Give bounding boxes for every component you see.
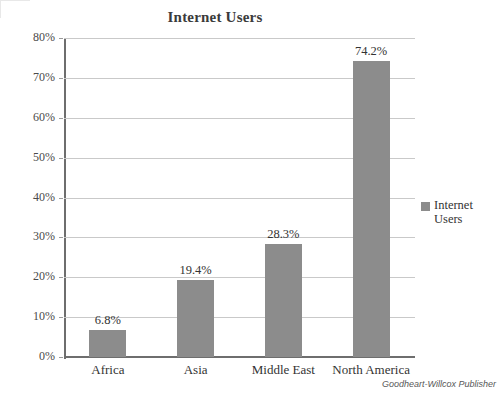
- y-tick-mark-70: [59, 78, 63, 79]
- y-tick-label: 10%: [7, 309, 55, 324]
- bar-africa[interactable]: [89, 330, 126, 357]
- legend-label-internet-users: Internet Users: [434, 198, 496, 226]
- scan-edge-top: [0, 0, 30, 1]
- publisher-credit: Goodheart-Willcox Publisher: [0, 379, 496, 389]
- y-tick-label: 60%: [7, 110, 55, 125]
- plot-area: [64, 38, 415, 357]
- y-tick-mark-20: [59, 277, 63, 278]
- y-tick-mark-80: [59, 38, 63, 39]
- y-tick-mark-50: [59, 158, 63, 159]
- bar-north-america[interactable]: [353, 61, 390, 357]
- y-tick-mark-60: [59, 118, 63, 119]
- legend-swatch-internet-users: [421, 202, 430, 211]
- y-tick-mark-30: [59, 237, 63, 238]
- chart-legend: Internet Users: [421, 198, 496, 226]
- bar-value-label: 19.4%: [156, 263, 236, 278]
- bar-middle-east[interactable]: [265, 244, 302, 357]
- category-label: North America: [316, 362, 426, 378]
- bar-value-label: 28.3%: [243, 227, 323, 242]
- chart-title: Internet Users: [0, 9, 430, 26]
- y-tick-label: 30%: [7, 229, 55, 244]
- bar-value-label: 74.2%: [331, 44, 411, 59]
- y-tick-mark-40: [59, 198, 63, 199]
- y-tick-mark-0: [59, 357, 63, 358]
- y-tick-label: 0%: [7, 349, 55, 364]
- y-tick-mark-10: [59, 317, 63, 318]
- bar-value-label: 6.8%: [68, 313, 148, 328]
- gridline-80: [64, 38, 415, 39]
- y-tick-label: 40%: [7, 190, 55, 205]
- y-tick-label: 20%: [7, 269, 55, 284]
- bar-asia[interactable]: [177, 280, 214, 357]
- y-tick-label: 70%: [7, 70, 55, 85]
- y-tick-label: 80%: [7, 30, 55, 45]
- bar-chart: Internet Users Internet Users Goodheart-…: [0, 0, 501, 397]
- y-tick-label: 50%: [7, 150, 55, 165]
